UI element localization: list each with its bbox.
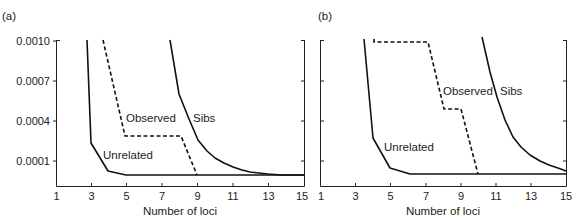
panel-a-xtick-label: 3	[88, 190, 94, 202]
panel-a-y-ticks: 0.0010 0.0007 0.0004 0.0001	[16, 35, 304, 167]
panel-b: (b) 1 3 5	[318, 10, 572, 217]
chart-svg: (a) 0.0010 0.0007 0.0004 0.0001	[0, 0, 584, 221]
panel-b-observed-label: Observed	[443, 85, 493, 97]
panel-b-xtick-label: 11	[490, 190, 501, 202]
panel-a-xtick-label: 15	[296, 190, 308, 202]
panel-a-label: (a)	[2, 10, 16, 22]
panel-b-xtick-label: 1	[318, 190, 324, 202]
panel-a-ytick-label: 0.0010	[16, 35, 50, 47]
panel-a-sibs-curve	[170, 40, 304, 175]
figure: (a) 0.0010 0.0007 0.0004 0.0001	[0, 0, 584, 221]
panel-a-x-ticks: 1 3 5 7 9 11 13 15	[53, 183, 308, 202]
panel-b-observed-curve	[374, 39, 478, 174]
panel-a-ytick-label: 0.0004	[16, 115, 50, 127]
panel-b-xtick-label: 5	[387, 190, 393, 202]
panel-b-xtick-label: 15	[560, 190, 572, 202]
panel-a-ytick-label: 0.0001	[16, 155, 50, 167]
panel-b-xtick-label: 9	[458, 190, 464, 202]
panel-a-observed-label: Observed	[126, 112, 176, 124]
panel-b-unrelated-label: Unrelated	[384, 141, 434, 153]
panel-a-xtick-label: 9	[194, 190, 200, 202]
panel-b-sibs-label: Sibs	[500, 85, 523, 97]
panel-b-label: (b)	[318, 10, 332, 22]
panel-b-x-ticks: 1 3 5 7 9 11 13 15	[318, 183, 572, 202]
panel-b-xtick-label: 13	[525, 190, 537, 202]
panel-a-xtick-label: 11	[227, 190, 238, 202]
panel-b-xtick-label: 3	[352, 190, 358, 202]
panel-b-xtick-label: 7	[423, 190, 429, 202]
panel-a-x-axis-label: Number of loci	[143, 205, 217, 217]
panel-a: (a) 0.0010 0.0007 0.0004 0.0001	[2, 10, 308, 217]
panel-b-sibs-curve	[482, 37, 566, 171]
panel-a-unrelated-label: Unrelated	[103, 149, 153, 161]
panel-a-xtick-label: 7	[159, 190, 165, 202]
panel-a-xtick-label: 5	[123, 190, 129, 202]
panel-b-unrelated-curve	[364, 39, 566, 174]
panel-a-sibs-label: Sibs	[193, 112, 216, 124]
panel-a-xtick-label: 1	[53, 190, 59, 202]
panel-a-ytick-label: 0.0007	[16, 75, 50, 87]
panel-b-x-axis-label: Number of loci	[406, 205, 480, 217]
panel-a-xtick-label: 13	[262, 190, 274, 202]
